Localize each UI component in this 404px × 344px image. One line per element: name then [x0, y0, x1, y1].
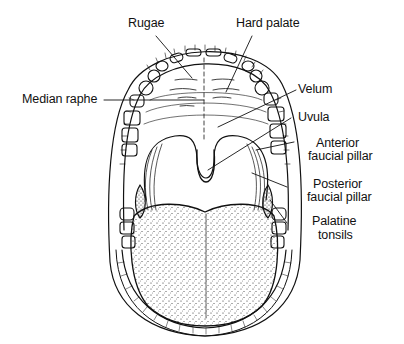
label-palatine-tonsils-line2: tonsils [318, 229, 353, 242]
label-hard-palate: Hard palate [236, 17, 300, 30]
label-palatine-tonsils-line1: Palatine [312, 215, 356, 228]
label-anterior-faucial-pillar-line2: faucial pillar [308, 150, 373, 163]
tongue [131, 204, 278, 326]
label-rugae: Rugae [128, 17, 164, 30]
label-posterior-faucial-pillar-line2: faucial pillar [307, 191, 372, 204]
label-median-raphe: Median raphe [22, 93, 97, 106]
velum-arch [144, 136, 267, 200]
oral-cavity-diagram [0, 0, 404, 344]
label-velum: Velum [298, 83, 332, 96]
uvula [197, 150, 215, 182]
label-uvula: Uvula [298, 111, 329, 124]
